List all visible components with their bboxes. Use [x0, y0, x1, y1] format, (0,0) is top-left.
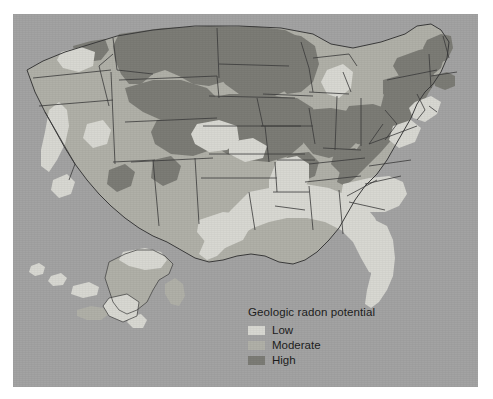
zone-low-socal-coast [51, 174, 75, 198]
legend-swatch-low [248, 326, 265, 335]
legend-item-moderate[interactable]: Moderate [246, 338, 421, 353]
alaska-southeast-panhandle [165, 278, 185, 306]
legend-title: Geologic radon potential [248, 306, 421, 318]
legend-item-low[interactable]: Low [246, 323, 421, 338]
radon-potential-figure: Geologic radon potential Low Moderate Hi… [0, 0, 493, 399]
map-legend: Geologic radon potential Low Moderate Hi… [246, 306, 421, 368]
legend-label-moderate: Moderate [272, 338, 321, 353]
hawaii-oahu [48, 273, 67, 286]
hawaii-kauai [29, 263, 45, 276]
legend-swatch-high [248, 356, 265, 365]
legend-item-high[interactable]: High [246, 353, 421, 368]
legend-swatch-moderate [248, 341, 265, 350]
map-panel: Geologic radon potential Low Moderate Hi… [13, 14, 478, 387]
legend-label-low: Low [272, 323, 293, 338]
hawaii-molokai-maui [71, 282, 99, 298]
legend-label-high: High [272, 353, 296, 368]
